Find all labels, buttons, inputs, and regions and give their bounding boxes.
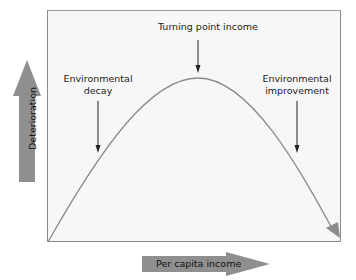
turning-point-label: Turning point income bbox=[158, 21, 238, 33]
improvement-label: Environmental improvement bbox=[262, 73, 332, 97]
y-axis-label: Deterioration bbox=[27, 70, 38, 150]
improvement-label-line1: Environmental bbox=[262, 73, 332, 85]
decay-label: Environmental decay bbox=[63, 73, 133, 97]
decay-label-line1: Environmental bbox=[63, 73, 133, 85]
x-axis-label: Per capita income bbox=[156, 258, 241, 269]
curve-arrowhead-icon bbox=[326, 222, 340, 238]
decay-label-line2: decay bbox=[63, 85, 133, 97]
improvement-label-line2: improvement bbox=[262, 85, 332, 97]
kuznets-curve bbox=[0, 0, 356, 280]
